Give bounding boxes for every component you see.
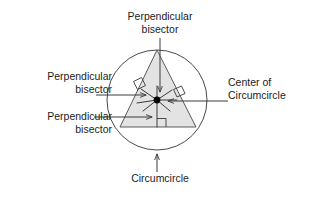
label-line-2: bisector <box>100 23 220 36</box>
label-line-1: Perpendicular <box>8 70 112 83</box>
label-line-2: bisector <box>6 123 112 136</box>
label-perpendicular-bisector-left: Perpendicular bisector <box>8 70 112 96</box>
label-line-2: Circumcircle <box>228 89 306 102</box>
label-line-1: Perpendicular <box>100 10 220 23</box>
label-perpendicular-bisector-lower: Perpendicular bisector <box>6 110 112 136</box>
label-center-of-circumcircle: Center of Circumcircle <box>228 76 306 102</box>
circumcenter-dot <box>154 97 161 104</box>
label-line-1: Perpendicular <box>6 110 112 123</box>
label-line-1: Center of <box>228 76 306 89</box>
label-line-1: Circumcircle <box>108 172 212 185</box>
label-line-2: bisector <box>8 83 112 96</box>
label-perpendicular-bisector-top: Perpendicular bisector <box>100 10 220 36</box>
label-circumcircle: Circumcircle <box>108 172 212 185</box>
figure-page: Perpendicular bisector Perpendicular bis… <box>0 0 310 200</box>
triangle-shape <box>120 50 196 127</box>
